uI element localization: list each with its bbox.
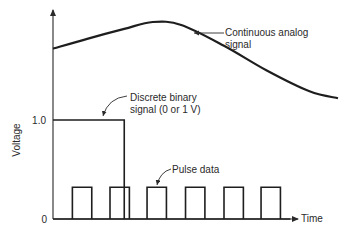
tick-label-0: 0 [41, 214, 47, 225]
pulse-4 [186, 187, 205, 219]
signal-diagram: Voltage Time 1.0 0 Continuous analog sig… [0, 0, 344, 239]
binary-signal-line [53, 120, 124, 219]
pulse-1 [72, 187, 91, 219]
pulse-label: Pulse data [172, 164, 220, 175]
analog-label-line2: signal [225, 39, 251, 50]
analog-label-line1: Continuous analog [225, 27, 308, 38]
pulse-3 [147, 187, 166, 219]
binary-label-line1: Discrete binary [130, 92, 197, 103]
y-axis-label: Voltage [11, 123, 22, 157]
pulse-6 [261, 187, 280, 219]
pulse-5 [224, 187, 243, 219]
tick-label-1: 1.0 [32, 115, 46, 126]
pulse-2 [110, 187, 129, 219]
pulse-leader-arrow [157, 169, 171, 185]
binary-leader-arrow [103, 96, 127, 116]
binary-label-line2: signal (0 or 1 V) [130, 104, 201, 115]
x-axis-label: Time [301, 213, 323, 224]
